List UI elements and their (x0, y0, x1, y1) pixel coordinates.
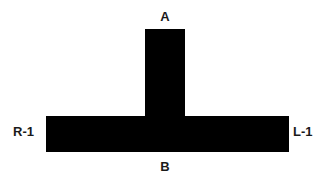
label-r-1: R-1 (13, 125, 34, 138)
figure-container: A B R-1 L-1 (0, 0, 330, 184)
label-a: A (0, 10, 330, 23)
label-b: B (0, 160, 330, 173)
label-l-1: L-1 (293, 125, 313, 138)
t-shape-graphic (0, 0, 330, 184)
